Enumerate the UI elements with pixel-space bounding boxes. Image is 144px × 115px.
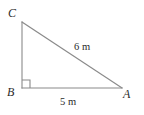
side-length-label-base: 5 m	[60, 97, 76, 108]
vertex-label-a: A	[123, 88, 130, 100]
vertex-label-c: C	[8, 7, 16, 19]
vertex-label-b: B	[7, 86, 14, 98]
triangle-side-hypotenuse	[22, 22, 122, 88]
right-triangle-figure: C B A 6 m 5 m	[0, 0, 144, 115]
right-angle-marker-icon	[22, 80, 30, 88]
side-length-label-hypotenuse: 6 m	[74, 42, 90, 53]
